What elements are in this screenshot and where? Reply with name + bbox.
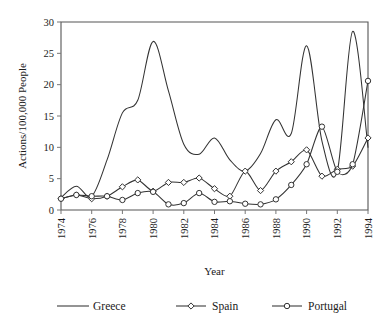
- data-point-spain: [181, 179, 187, 185]
- plot-border: [61, 22, 368, 210]
- y-tick-label: 30: [44, 17, 55, 28]
- y-axis-title: Actions/100,000 People: [16, 63, 28, 169]
- data-point-spain: [365, 135, 371, 141]
- axis-titles: Actions/100,000 PeopleYear: [16, 63, 225, 277]
- data-point-portugal: [181, 200, 186, 205]
- plot-frame: [61, 22, 368, 210]
- data-point-portugal: [304, 162, 309, 167]
- x-tick-label: 1992: [332, 218, 343, 239]
- data-point-portugal: [273, 197, 278, 202]
- legend-label-portugal: Portugal: [308, 300, 347, 313]
- y-axis-ticks: [57, 22, 61, 210]
- line-chart: 051015202530 197419761978198019821984198…: [0, 0, 390, 329]
- data-point-portugal: [150, 189, 155, 194]
- x-tick-label: 1988: [271, 218, 282, 239]
- data-point-spain: [135, 177, 141, 183]
- x-axis-ticks: [61, 210, 368, 214]
- x-tick-label: 1982: [179, 218, 190, 239]
- data-point-portugal: [196, 190, 201, 195]
- x-axis-title: Year: [204, 265, 225, 277]
- data-point-portugal: [104, 194, 109, 199]
- data-point-spain: [119, 184, 125, 190]
- data-point-portugal: [58, 196, 63, 201]
- y-tick-label: 10: [44, 142, 55, 153]
- data-point-spain: [196, 175, 202, 181]
- series-spain: [58, 135, 371, 202]
- legend-label-greece: Greece: [93, 300, 126, 312]
- data-point-portugal: [258, 202, 263, 207]
- legend-item-portugal: Portugal: [272, 300, 347, 313]
- legend-item-greece: Greece: [57, 300, 126, 312]
- data-point-portugal: [335, 169, 340, 174]
- data-point-portugal: [243, 201, 248, 206]
- data-point-portugal: [120, 197, 125, 202]
- x-tick-label: 1990: [301, 218, 312, 239]
- series-layer: [58, 31, 371, 207]
- y-tick-label: 0: [49, 205, 54, 216]
- x-tick-label: 1978: [117, 218, 128, 239]
- x-tick-label: 1994: [363, 217, 374, 239]
- y-tick-label: 20: [44, 79, 55, 90]
- data-point-portugal: [74, 192, 79, 197]
- x-tick-label: 1974: [56, 217, 67, 239]
- chart-container: 051015202530 197419761978198019821984198…: [0, 0, 390, 329]
- data-point-portugal: [227, 199, 232, 204]
- data-point-portugal: [319, 124, 324, 129]
- x-tick-label: 1980: [148, 218, 159, 239]
- data-point-portugal: [350, 162, 355, 167]
- data-point-portugal: [135, 190, 140, 195]
- x-axis-tick-labels: 1974197619781980198219841986198819901992…: [56, 217, 374, 239]
- x-tick-label: 1986: [240, 218, 251, 239]
- data-point-spain: [165, 179, 171, 185]
- x-tick-label: 1976: [87, 218, 98, 239]
- legend-item-spain: Spain: [176, 300, 238, 313]
- data-point-portugal: [365, 78, 370, 83]
- data-point-portugal: [212, 199, 217, 204]
- data-point-portugal: [166, 202, 171, 207]
- chart-legend: GreeceSpainPortugal: [57, 300, 347, 313]
- x-tick-label: 1984: [209, 217, 220, 239]
- legend-marker-portugal: [284, 303, 289, 308]
- data-point-portugal: [289, 182, 294, 187]
- data-point-portugal: [89, 194, 94, 199]
- y-tick-label: 15: [44, 111, 55, 122]
- y-axis-tick-labels: 051015202530: [44, 17, 55, 216]
- y-tick-label: 25: [44, 48, 55, 59]
- legend-label-spain: Spain: [212, 300, 238, 313]
- y-tick-label: 5: [49, 173, 54, 184]
- legend-marker-spain: [188, 303, 194, 309]
